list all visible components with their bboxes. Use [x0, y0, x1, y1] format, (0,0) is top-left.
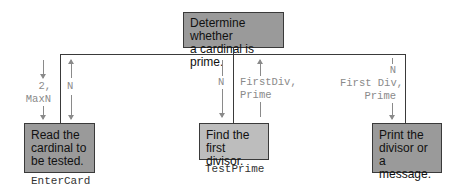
down-arrow-icon [43, 106, 44, 119]
enter-params-up: N [67, 80, 73, 93]
print-box: Print the divisor or a message. [372, 123, 442, 173]
down-arrow-icon [43, 60, 44, 78]
enter-line-3: be tested. [31, 155, 88, 168]
test-prime-box: Find the first divisor. [199, 123, 269, 160]
enter-card-box: Read the cardinal to be tested. [24, 123, 95, 173]
print-params-down: N First Div, Prime [340, 64, 396, 103]
right-drop [405, 54, 406, 124]
enter-params-down: 2, MaxN [22, 80, 51, 106]
print-line-2: divisor or [379, 142, 435, 155]
test-prime-label: TestPrime [205, 163, 264, 175]
horizontal-connector [60, 54, 406, 55]
up-arrow-icon [71, 60, 72, 78]
down-arrow-icon [71, 95, 72, 119]
print-line-3: a message. [379, 155, 435, 181]
test-params-down: N [218, 76, 224, 89]
test-params-up: FirstDiv, Prime [240, 76, 297, 102]
left-drop [60, 54, 61, 124]
root-module-box: Determine whether a cardinal is prime. [183, 12, 284, 48]
root-stem [233, 48, 234, 124]
enter-card-label: EnterCard [31, 175, 90, 187]
root-line-1: Determine whether [190, 17, 277, 43]
